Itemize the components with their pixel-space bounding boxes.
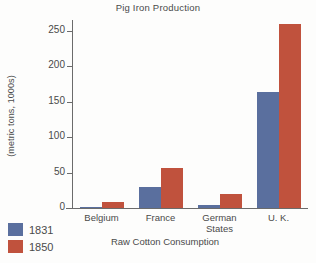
y-tick-mark	[67, 137, 73, 138]
y-axis-title: (metric tons, 1000s)	[6, 75, 16, 157]
legend-label: 1850	[29, 241, 53, 253]
bar[interactable]	[220, 194, 242, 208]
bar-group: U. K.	[257, 20, 301, 208]
bar-group: Belgium	[80, 20, 124, 208]
y-axis-title-wrapper: (metric tons, 1000s)	[2, 28, 20, 204]
x-tick-label: U. K.	[239, 212, 317, 223]
y-tick-label: 50	[54, 166, 65, 177]
bar-group: GermanStates	[198, 20, 242, 208]
legend-swatch	[8, 240, 23, 253]
y-tick-label: 150	[48, 95, 65, 106]
bar[interactable]	[139, 187, 161, 208]
y-tick-label: 250	[48, 24, 65, 35]
y-tick-mark	[67, 102, 73, 103]
chart-legend: 18311850	[8, 221, 53, 255]
bar-group: France	[139, 20, 183, 208]
y-axis-line	[72, 20, 73, 208]
legend-item[interactable]: 1850	[8, 238, 53, 255]
bar[interactable]	[198, 205, 220, 208]
chart-title: Pig Iron Production	[0, 2, 316, 13]
y-tick-mark	[67, 31, 73, 32]
bar[interactable]	[80, 207, 102, 208]
legend-item[interactable]: 1831	[8, 221, 53, 238]
x-axis-title: Raw Cotton Consumption	[55, 236, 275, 247]
plot-area: 050100150200250 BelgiumFranceGermanState…	[72, 20, 308, 208]
y-tick-mark	[67, 173, 73, 174]
x-axis-line	[66, 208, 308, 209]
y-tick-mark	[67, 66, 73, 67]
bar[interactable]	[257, 92, 279, 208]
y-tick-label: 0	[59, 201, 65, 212]
y-tick-mark	[67, 208, 73, 209]
y-tick-label: 200	[48, 59, 65, 70]
bar[interactable]	[102, 202, 124, 208]
bar[interactable]	[279, 24, 301, 208]
legend-swatch	[8, 223, 23, 236]
legend-label: 1831	[29, 224, 53, 236]
y-tick-label: 100	[48, 130, 65, 141]
chart-figure: Pig Iron Production (metric tons, 1000s)…	[0, 0, 316, 263]
bar[interactable]	[161, 168, 183, 208]
